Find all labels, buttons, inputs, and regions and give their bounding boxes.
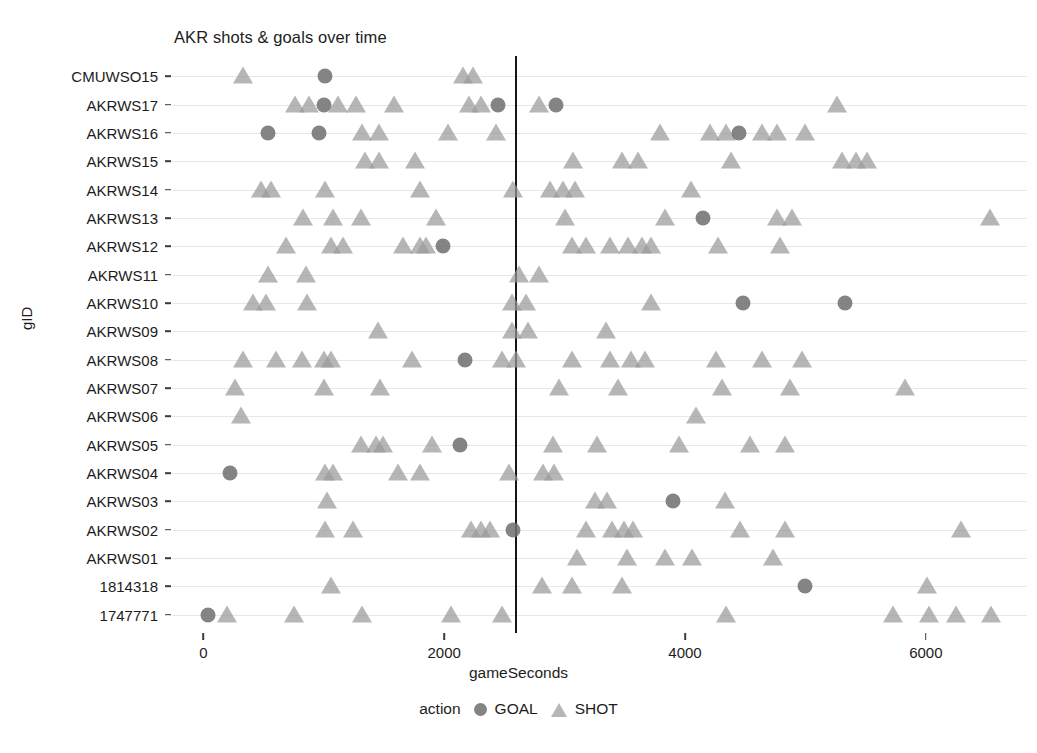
shot-marker[interactable] [562, 350, 582, 367]
shot-marker[interactable] [576, 520, 596, 537]
goal-marker[interactable] [201, 607, 216, 622]
shot-marker[interactable] [543, 435, 563, 452]
goal-marker[interactable] [452, 437, 467, 452]
shot-marker[interactable] [587, 435, 607, 452]
shot-marker[interactable] [471, 95, 491, 112]
shot-marker[interactable] [315, 180, 335, 197]
shot-marker[interactable] [384, 95, 404, 112]
shot-marker[interactable] [655, 208, 675, 225]
shot-marker[interactable] [261, 180, 281, 197]
shot-marker[interactable] [706, 350, 726, 367]
shot-marker[interactable] [532, 577, 552, 594]
shot-marker[interactable] [608, 378, 628, 395]
shot-marker[interactable] [402, 350, 422, 367]
shot-marker[interactable] [323, 464, 343, 481]
shot-marker[interactable] [373, 435, 393, 452]
shot-marker[interactable] [576, 237, 596, 254]
goal-marker[interactable] [549, 97, 564, 112]
shot-marker[interactable] [600, 350, 620, 367]
shot-marker[interactable] [276, 237, 296, 254]
goal-marker[interactable] [838, 295, 853, 310]
shot-marker[interactable] [782, 208, 802, 225]
shot-marker[interactable] [563, 152, 583, 169]
shot-marker[interactable] [780, 378, 800, 395]
goal-marker[interactable] [505, 522, 520, 537]
shot-marker[interactable] [917, 577, 937, 594]
shot-marker[interactable] [410, 180, 430, 197]
shot-marker[interactable] [293, 208, 313, 225]
shot-marker[interactable] [256, 293, 276, 310]
shot-marker[interactable] [333, 237, 353, 254]
shot-marker[interactable] [827, 95, 847, 112]
shot-marker[interactable] [317, 492, 337, 509]
shot-marker[interactable] [740, 435, 760, 452]
goal-marker[interactable] [798, 579, 813, 594]
shot-marker[interactable] [596, 322, 616, 339]
legend-entry-goal[interactable]: GOAL [474, 700, 538, 718]
shot-marker[interactable] [612, 577, 632, 594]
shot-marker[interactable] [314, 378, 334, 395]
shot-marker[interactable] [369, 152, 389, 169]
goal-marker[interactable] [222, 466, 237, 481]
shot-marker[interactable] [686, 407, 706, 424]
shot-marker[interactable] [388, 464, 408, 481]
shot-marker[interactable] [233, 350, 253, 367]
shot-marker[interactable] [284, 605, 304, 622]
shot-marker[interactable] [315, 520, 335, 537]
shot-marker[interactable] [321, 350, 341, 367]
goal-marker[interactable] [435, 239, 450, 254]
goal-marker[interactable] [732, 125, 747, 140]
shot-marker[interactable] [641, 237, 661, 254]
shot-marker[interactable] [416, 237, 436, 254]
shot-marker[interactable] [492, 605, 512, 622]
shot-marker[interactable] [763, 549, 783, 566]
shot-marker[interactable] [567, 549, 587, 566]
shot-marker[interactable] [438, 123, 458, 140]
shot-marker[interactable] [258, 265, 278, 282]
shot-marker[interactable] [352, 605, 372, 622]
shot-marker[interactable] [549, 378, 569, 395]
shot-marker[interactable] [351, 208, 371, 225]
shot-marker[interactable] [370, 378, 390, 395]
shot-marker[interactable] [486, 123, 506, 140]
shot-marker[interactable] [775, 435, 795, 452]
shot-marker[interactable] [857, 152, 877, 169]
shot-marker[interactable] [544, 464, 564, 481]
shot-marker[interactable] [422, 435, 442, 452]
shot-marker[interactable] [617, 549, 637, 566]
shot-marker[interactable] [499, 464, 519, 481]
shot-marker[interactable] [946, 605, 966, 622]
shot-marker[interactable] [346, 95, 366, 112]
shot-marker[interactable] [555, 208, 575, 225]
goal-marker[interactable] [491, 97, 506, 112]
shot-marker[interactable] [951, 520, 971, 537]
shot-marker[interactable] [681, 180, 701, 197]
shot-marker[interactable] [369, 123, 389, 140]
shot-marker[interactable] [323, 208, 343, 225]
shot-marker[interactable] [682, 549, 702, 566]
goal-marker[interactable] [457, 352, 472, 367]
goal-marker[interactable] [696, 210, 711, 225]
shot-marker[interactable] [405, 152, 425, 169]
shot-marker[interactable] [775, 520, 795, 537]
shot-marker[interactable] [708, 237, 728, 254]
shot-marker[interactable] [225, 378, 245, 395]
shot-marker[interactable] [721, 152, 741, 169]
shot-marker[interactable] [715, 492, 735, 509]
shot-marker[interactable] [410, 464, 430, 481]
shot-marker[interactable] [529, 95, 549, 112]
shot-marker[interactable] [266, 350, 286, 367]
shot-marker[interactable] [895, 378, 915, 395]
shot-marker[interactable] [635, 350, 655, 367]
goal-marker[interactable] [317, 69, 332, 84]
shot-marker[interactable] [795, 123, 815, 140]
shot-marker[interactable] [343, 520, 363, 537]
shot-marker[interactable] [529, 265, 549, 282]
shot-marker[interactable] [518, 322, 538, 339]
shot-marker[interactable] [426, 208, 446, 225]
shot-marker[interactable] [562, 577, 582, 594]
shot-marker[interactable] [217, 605, 237, 622]
shot-marker[interactable] [980, 208, 1000, 225]
shot-marker[interactable] [628, 152, 648, 169]
shot-marker[interactable] [368, 322, 388, 339]
